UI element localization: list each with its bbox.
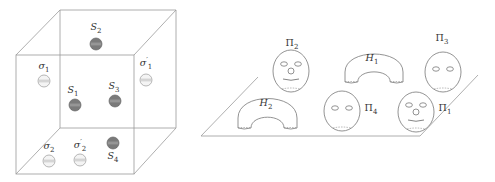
- face-outline: [324, 91, 360, 131]
- eye-left-icon: [406, 103, 413, 107]
- cube-depth-edge: [134, 10, 176, 55]
- eye-right-icon: [447, 67, 454, 71]
- sphere-label-S2: S2: [91, 21, 102, 35]
- face-outline: [425, 52, 461, 92]
- sphere-label-sigma2: σ2: [44, 140, 55, 154]
- eye-right-icon: [346, 106, 353, 110]
- sphere-label-sigma1: σ1: [39, 60, 50, 74]
- sphere-sigma2p: [74, 154, 86, 166]
- face-label-Pi4: Π4: [365, 102, 378, 116]
- diagram-canvas: S2σ1σ′1S1S3S4σ2σ′2 H1H2Π2Π3Π4Π1: [0, 0, 495, 182]
- face-Pi3: [425, 52, 461, 92]
- sphere-S3: [109, 95, 121, 107]
- sphere-label-S4: S4: [108, 150, 120, 164]
- sphere-sigma1: [38, 75, 50, 87]
- cube-panel: S2σ1σ′1S1S3S4σ2σ′2: [16, 10, 176, 174]
- sphere-body: [69, 99, 81, 111]
- nose-icon: [413, 109, 419, 115]
- face-Pi4: [324, 91, 360, 131]
- sphere-body: [74, 154, 86, 166]
- cube-depth-edge: [134, 128, 176, 174]
- sphere-label-sigma1p: σ′1: [140, 56, 153, 71]
- sphere-label-sigma2p: σ′2: [74, 138, 87, 153]
- sphere-body: [38, 75, 50, 87]
- sphere-S2: [90, 38, 102, 50]
- nose-icon: [288, 68, 294, 74]
- sphere-label-S3: S3: [109, 80, 120, 94]
- eye-left-icon: [332, 106, 339, 110]
- face-label-Pi2: Π2: [286, 37, 299, 51]
- face-Pi1: [398, 92, 434, 132]
- sphere-body: [90, 38, 102, 50]
- sphere-S1: [69, 99, 81, 111]
- sphere-body: [109, 95, 121, 107]
- face-Pi2: [273, 50, 309, 92]
- eye-left-icon: [281, 62, 288, 66]
- face-label-Pi3: Π3: [436, 32, 449, 46]
- sphere-S4: [107, 137, 119, 149]
- sphere-body: [107, 137, 119, 149]
- plane-panel: H1H2Π2Π3Π4Π1: [201, 32, 478, 136]
- eye-right-icon: [420, 103, 427, 107]
- sphere-label-S1: S1: [68, 84, 79, 98]
- cube-depth-edge: [16, 10, 60, 55]
- sphere-body: [140, 74, 152, 86]
- eye-right-icon: [295, 62, 302, 66]
- sphere-sigma1p: [140, 74, 152, 86]
- sphere-sigma2: [43, 155, 55, 167]
- eye-left-icon: [433, 67, 440, 71]
- sphere-body: [43, 155, 55, 167]
